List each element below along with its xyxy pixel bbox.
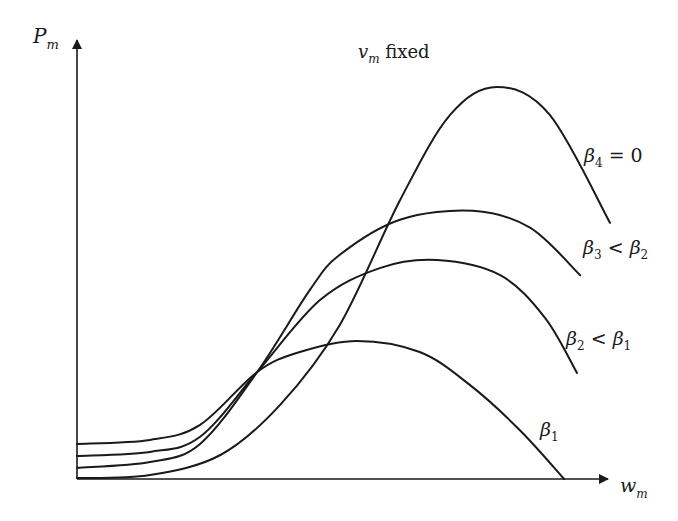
chart-title: vm fixed	[358, 41, 430, 66]
curve-beta3	[77, 210, 580, 467]
curve-beta1	[77, 341, 564, 479]
y-axis-label: Pm	[32, 24, 59, 52]
curve-beta4	[77, 87, 610, 478]
curves-group	[77, 87, 610, 479]
x-axis-label: wm	[620, 474, 648, 501]
series-label-beta4: β4 = 0	[583, 144, 643, 170]
series-label-beta1: β1	[539, 418, 559, 444]
series-label-beta2: β2 < β1	[565, 327, 631, 353]
series-label-beta3: β3 < β2	[582, 236, 648, 262]
chart-canvas: Pm vm fixed wm β4 = 0 β3 < β2 β2 < β1 β1	[0, 0, 678, 521]
curve-beta2	[77, 260, 577, 456]
